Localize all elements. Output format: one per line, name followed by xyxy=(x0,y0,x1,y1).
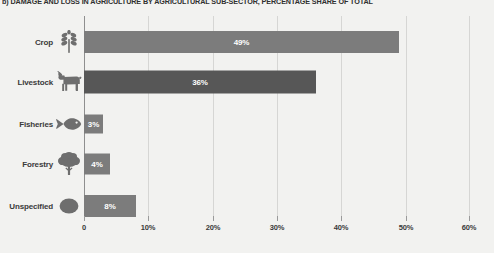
bar-row-fisheries: 3% xyxy=(84,104,470,144)
tree-icon xyxy=(56,151,82,177)
chart-figure: b) DAMAGE AND LOSS IN AGRICULTURE BY AGR… xyxy=(0,0,494,253)
bar-value-crop: 49% xyxy=(234,38,250,47)
xtick-30 xyxy=(277,216,278,221)
xtick-40 xyxy=(341,216,342,221)
xtick-label-60: 60% xyxy=(462,223,477,232)
plot-area: 49% 36% 3% 4% 8% xyxy=(84,16,470,216)
xtick-20 xyxy=(213,216,214,221)
xtick-0 xyxy=(84,216,85,221)
xtick-label-40: 40% xyxy=(334,223,349,232)
x-axis: 0 10% 20% 30% 40% 50% 60% xyxy=(84,216,470,246)
bar-fisheries[interactable]: 3% xyxy=(84,115,103,134)
wheat-icon xyxy=(56,29,82,55)
xtick-label-20: 20% xyxy=(206,223,221,232)
chart-title: b) DAMAGE AND LOSS IN AGRICULTURE BY AGR… xyxy=(2,0,485,6)
category-fisheries: Fisheries xyxy=(0,104,84,144)
category-label-unspecified: Unspecified xyxy=(9,202,53,211)
category-label-fisheries: Fisheries xyxy=(19,120,53,129)
xtick-60 xyxy=(469,216,470,221)
xtick-label-30: 30% xyxy=(270,223,285,232)
bar-row-forestry: 4% xyxy=(84,144,470,184)
livestock-icon xyxy=(56,69,82,95)
xtick-10 xyxy=(148,216,149,221)
bar-value-forestry: 4% xyxy=(91,160,102,169)
bar-value-unspecified: 8% xyxy=(104,202,115,211)
category-label-crop: Crop xyxy=(35,38,53,47)
xtick-50 xyxy=(406,216,407,221)
fish-icon xyxy=(56,111,82,137)
category-unspecified: Unspecified xyxy=(0,186,84,226)
bar-row-livestock: 36% xyxy=(84,62,470,102)
bar-value-livestock: 36% xyxy=(192,78,208,87)
xtick-label-10: 10% xyxy=(141,223,156,232)
xtick-label-0: 0 xyxy=(82,223,86,232)
category-label-forestry: Forestry xyxy=(22,160,53,169)
bar-livestock[interactable]: 36% xyxy=(84,71,316,94)
category-label-livestock: Livestock xyxy=(17,78,53,87)
category-forestry: Forestry xyxy=(0,144,84,184)
xtick-label-50: 50% xyxy=(399,223,414,232)
category-livestock: Livestock xyxy=(0,62,84,102)
bar-crop[interactable]: 49% xyxy=(84,31,399,53)
bar-forestry[interactable]: 4% xyxy=(84,154,110,175)
bar-row-crop: 49% xyxy=(84,22,470,62)
category-crop: Crop xyxy=(0,22,84,62)
unspecified-icon xyxy=(56,193,82,219)
bar-unspecified[interactable]: 8% xyxy=(84,195,136,217)
bar-value-fisheries: 3% xyxy=(88,120,99,129)
